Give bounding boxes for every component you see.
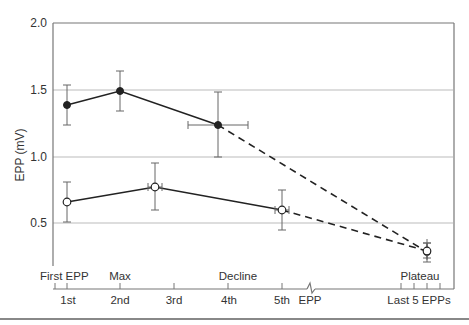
point-filled-2nd (117, 88, 124, 95)
point-open-last (423, 247, 431, 255)
xlabel-1st: 1st (60, 294, 76, 306)
bottom-rule (0, 318, 469, 320)
xlabel-2nd: 2nd (110, 294, 129, 306)
y-axis-label: EPP (mV) (13, 128, 27, 181)
point-open-3rd (151, 183, 159, 191)
series-open (63, 163, 431, 260)
series-filled (63, 71, 431, 262)
ytick-0-5: 0.5 (30, 216, 47, 230)
point-open-5th (278, 206, 286, 214)
phase-plateau: Plateau (400, 270, 439, 282)
axis-break-icon (307, 283, 315, 293)
phase-first-epp: First EPP (40, 270, 89, 282)
xlabel-4th: 4th (221, 294, 237, 306)
ytick-2-0: 2.0 (30, 16, 47, 30)
ytick-1-5: 1.5 (30, 83, 47, 97)
xlabel-5th: 5th (274, 294, 290, 306)
xlabel-3rd: 3rd (166, 294, 183, 306)
point-filled-1st (64, 102, 71, 109)
phase-max: Max (109, 270, 131, 282)
xlabel-last-5-epps: Last 5 EPPs (387, 294, 451, 306)
xlabel-epp: EPP (298, 294, 321, 306)
ytick-1-0: 1.0 (30, 150, 47, 164)
phase-decline: Decline (219, 270, 257, 282)
point-filled-4th (215, 122, 222, 129)
series-open-plateau (423, 243, 431, 258)
epp-chart: 2.0 1.5 1.0 0.5 EPP (mV) First EPP Max D… (0, 0, 469, 325)
point-open-1st (63, 198, 71, 206)
